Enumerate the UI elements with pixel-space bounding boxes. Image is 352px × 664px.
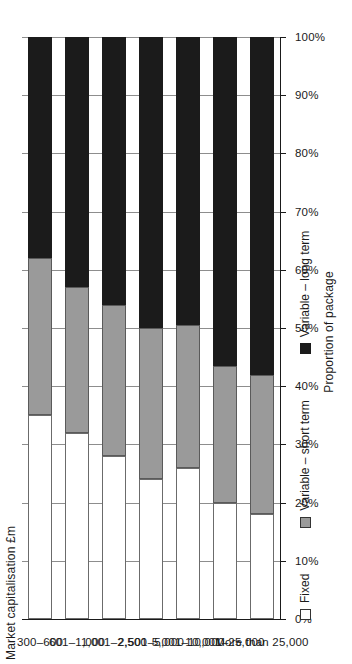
x-axis-tick [280,270,286,271]
bar-segment [139,479,163,619]
chart-legend: FixedVariable – short termVariable – lon… [298,38,312,620]
bar-segment [102,305,126,456]
x-axis-tick [280,561,286,562]
bar-segment [213,503,237,619]
bar-row [139,37,163,619]
legend-label: Variable – long term [298,231,312,338]
bar-segment [250,514,274,619]
legend-item: Variable – long term [298,231,312,355]
bar-segment [250,375,274,515]
x-axis-tick [280,619,286,620]
bar-segment [65,37,89,287]
bar-row [28,37,52,619]
x-axis-tick [280,37,286,38]
bar-segment [65,287,89,433]
bar-segment [28,415,52,619]
plot-area: 0%10%20%30%40%50%60%70%80%90%100% [22,38,280,620]
x-axis-tick [280,503,286,504]
x-axis-tick [280,153,286,154]
x-axis-tick [280,444,286,445]
bar-segment [102,456,126,619]
category-label: More than 25,000 [243,620,280,664]
bar-row [213,37,237,619]
bar-row [250,37,274,619]
rotated-figure-container: Market capitalisation £m 300–600601–1,00… [0,0,352,664]
bar-segment [250,37,274,375]
x-axis-tick [280,95,286,96]
x-axis-title: Proportion of package [322,0,336,664]
legend-label: Fixed [298,574,312,603]
stacked-bar-chart: Market capitalisation £m 300–600601–1,00… [0,0,352,664]
category-label-text: More than 25,000 [215,636,308,648]
bar-segment [213,366,237,503]
bar-segment [65,433,89,619]
bar-segment [139,37,163,328]
y-axis-title: Market capitalisation £m [4,526,18,660]
legend-swatch-icon [300,609,311,620]
bar-row [102,37,126,619]
category-axis-labels: 300–600601–1,0001,001–2,5002,501–5,0005,… [22,620,280,664]
x-axis-tick [280,386,286,387]
legend-item: Fixed [298,574,312,620]
legend-label: Variable – short term [298,400,312,511]
bar-segment [139,328,163,479]
bar-segment [213,37,237,366]
legend-swatch-icon [300,517,311,528]
bar-segment [102,37,126,305]
bar-row [176,37,200,619]
bar-segment [176,468,200,619]
legend-swatch-icon [300,343,311,354]
y-axis-line [22,619,280,620]
x-axis-tick [280,328,286,329]
bar-segment [176,325,200,468]
bar-segment [176,37,200,325]
bar-row [65,37,89,619]
x-axis-tick [280,212,286,213]
legend-item: Variable – short term [298,400,312,528]
bar-segment [28,258,52,415]
bar-segment [28,37,52,258]
